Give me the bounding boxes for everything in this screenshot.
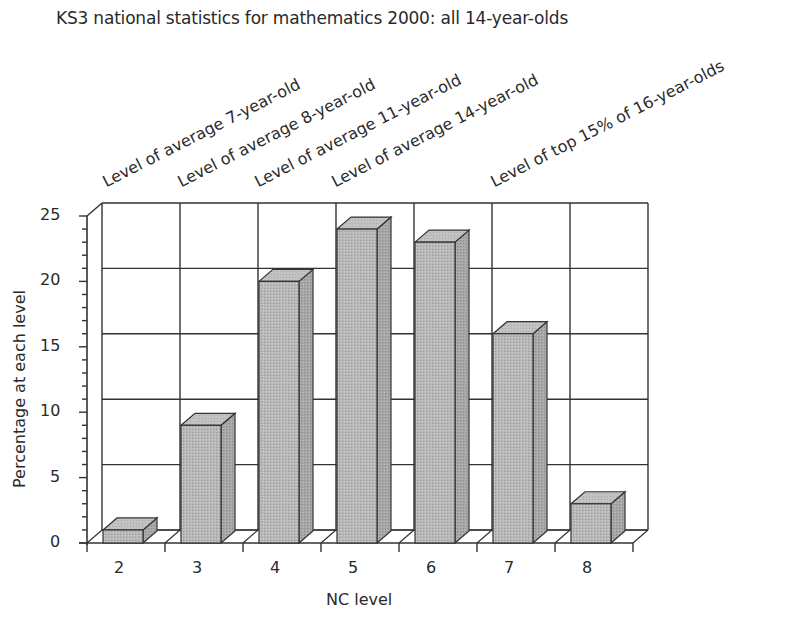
bar-side-face [299,269,313,543]
bar-5 [337,217,391,543]
x-tick-label: 4 [270,558,280,577]
bar-side-face [455,230,469,543]
bar-chart: KS3 national statistics for mathematics … [0,0,812,620]
floor-diagonal [555,530,570,543]
x-tick-label: 7 [504,558,514,577]
bars [103,217,625,543]
x-tick-label: 2 [114,558,124,577]
bar-4 [259,269,313,543]
y-tick-label: 20 [40,270,60,289]
bar-6 [415,230,469,543]
bar-3 [181,413,235,543]
bar-front-face [493,334,533,543]
y-tick-label: 15 [40,336,60,355]
bar-side-face [533,322,547,543]
y-axis-label: Percentage at each level [10,290,29,488]
bar-front-face [259,281,299,543]
bar-8 [571,492,625,543]
floor-diagonal [165,530,180,543]
y-tick-label: 0 [50,532,60,551]
bar-front-face [181,425,221,543]
floor-diagonal [87,530,102,543]
y-tick-label: 5 [50,467,60,486]
floor-diagonal [633,530,648,543]
bar-front-face [103,530,143,543]
y-tick-label: 10 [40,401,60,420]
bar-7 [493,322,547,543]
floor-diagonal [399,530,414,543]
floor-diagonal [243,530,258,543]
bar-front-face [337,229,377,543]
bar-front-face [571,504,611,543]
plot-area [0,0,812,620]
bar-side-face [377,217,391,543]
axis-depth-connector [87,203,102,216]
x-tick-label: 5 [348,558,358,577]
x-tick-label: 8 [582,558,592,577]
bar-front-face [415,242,455,543]
bar-side-face [221,413,235,543]
y-tick-label: 25 [40,205,60,224]
floor-diagonal [477,530,492,543]
x-tick-label: 3 [192,558,202,577]
x-tick-label: 6 [426,558,436,577]
bar-2 [103,518,157,543]
floor-diagonal [321,530,336,543]
x-axis-label: NC level [326,590,392,609]
